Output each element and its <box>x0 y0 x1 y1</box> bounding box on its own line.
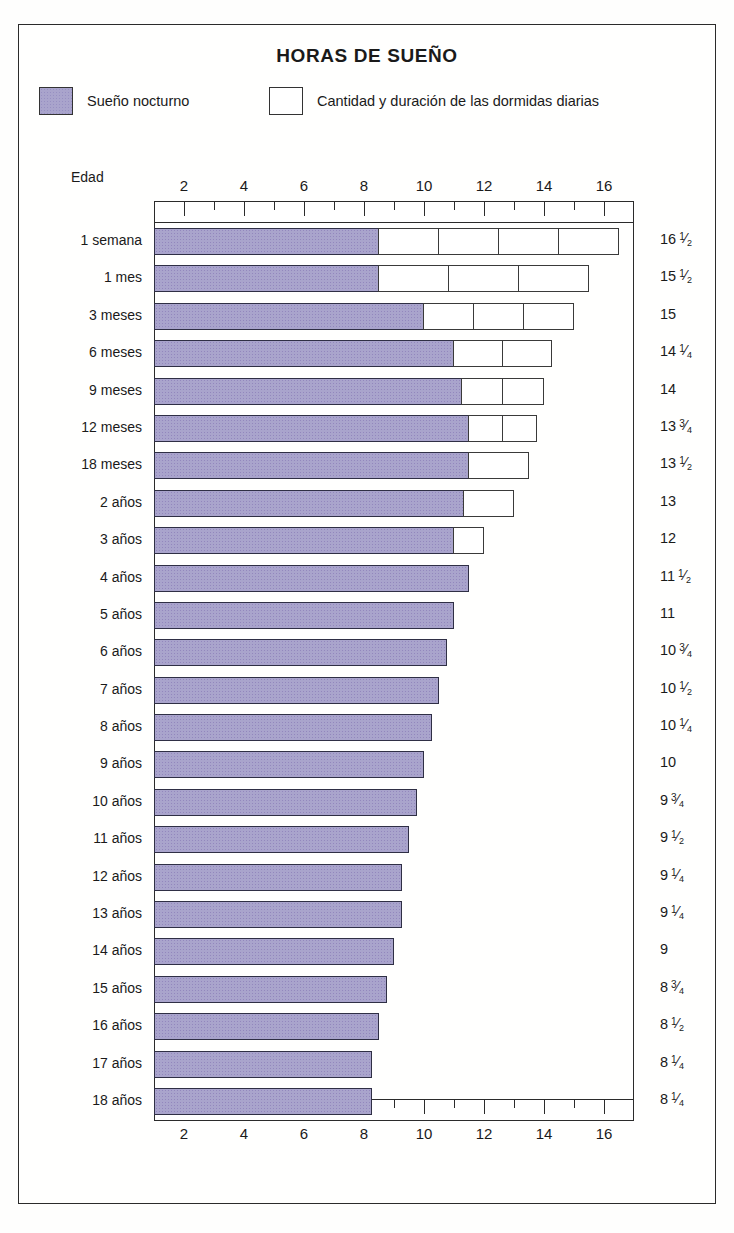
bar-row-total-label: 101⁄2 <box>660 680 692 696</box>
bar-row: 18 meses131⁄2 <box>154 447 634 484</box>
bar-segment-night <box>154 901 402 928</box>
fraction: 1⁄4 <box>671 867 684 881</box>
bar-row-age-label: 10 años <box>22 793 142 809</box>
chart-frame: HORAS DE SUEÑO Sueño nocturno Cantidad y… <box>18 24 716 1204</box>
bar-row-age-label: 1 mes <box>22 269 142 285</box>
stacked-bar <box>154 452 529 479</box>
bar-row-age-label: 8 años <box>22 718 142 734</box>
legend-item-night: Sueño nocturno <box>39 87 189 115</box>
bar-row-age-label: 13 años <box>22 905 142 921</box>
bar-row-total-label: 101⁄4 <box>660 717 692 733</box>
fraction: 1⁄4 <box>671 1091 684 1105</box>
stacked-bar <box>154 714 432 741</box>
bar-row-total-label: 93⁄4 <box>660 792 684 808</box>
fraction: 3⁄4 <box>671 979 684 993</box>
bar-row-total-label: 81⁄4 <box>660 1091 684 1107</box>
bar-row: 13 años91⁄4 <box>154 896 634 933</box>
bar-row: 16 años81⁄2 <box>154 1008 634 1045</box>
bar-segment-night <box>154 1051 372 1078</box>
bar-row-age-label: 9 meses <box>22 382 142 398</box>
bar-row-age-label: 7 años <box>22 681 142 697</box>
stacked-bar <box>154 677 439 704</box>
stacked-bar <box>154 228 619 255</box>
axis-tick-label: 12 <box>476 177 493 194</box>
bar-row-total-label: 131⁄2 <box>660 455 692 471</box>
stacked-bar <box>154 789 417 816</box>
bar-row-total-label: 12 <box>660 530 676 546</box>
fraction: 1⁄2 <box>671 1016 684 1030</box>
axis-tick-label: 6 <box>300 1125 308 1142</box>
bar-segment-night <box>154 789 417 816</box>
bar-segment-night <box>154 565 469 592</box>
stacked-bar <box>154 938 394 965</box>
axis-tick-label: 10 <box>416 177 433 194</box>
fraction: 1⁄4 <box>679 343 692 357</box>
bar-segment-nap <box>423 303 474 330</box>
bar-segment-nap <box>468 452 529 479</box>
stacked-bar <box>154 415 537 442</box>
axis-tick-label: 16 <box>596 177 613 194</box>
axis-tick <box>484 202 485 216</box>
bar-row-age-label: 4 años <box>22 569 142 585</box>
bar-segment-nap <box>502 378 544 405</box>
bar-row-age-label: 2 años <box>22 494 142 510</box>
bar-segment-nap <box>523 303 574 330</box>
stacked-bar <box>154 565 469 592</box>
bar-segment-nap <box>502 340 552 367</box>
axis-tick-label: 8 <box>360 177 368 194</box>
bar-row-age-label: 11 años <box>22 830 142 846</box>
bar-row-age-label: 18 meses <box>22 456 142 472</box>
bar-row-age-label: 9 años <box>22 755 142 771</box>
stacked-bar <box>154 1088 372 1115</box>
bar-row-age-label: 14 años <box>22 942 142 958</box>
bar-segment-night <box>154 415 469 442</box>
axis-tick <box>334 202 335 210</box>
stacked-bar <box>154 378 544 405</box>
bar-row: 4 años111⁄2 <box>154 560 634 597</box>
bar-row-total-label: 91⁄4 <box>660 904 684 920</box>
bar-segment-nap <box>558 228 619 255</box>
bar-row-total-label: 14 <box>660 381 676 397</box>
bar-segment-nap <box>518 265 589 292</box>
axis-tick-label: 12 <box>476 1125 493 1142</box>
stacked-bar <box>154 602 454 629</box>
axis-tick <box>604 202 605 216</box>
bar-row-total-label: 111⁄2 <box>660 568 691 584</box>
bar-row: 10 años93⁄4 <box>154 784 634 821</box>
bar-row-total-label: 81⁄4 <box>660 1054 684 1070</box>
bar-row-total-label: 103⁄4 <box>660 642 692 658</box>
stacked-bar <box>154 901 402 928</box>
bar-segment-nap <box>378 228 439 255</box>
bar-row-age-label: 5 años <box>22 606 142 622</box>
bar-segment-night <box>154 751 424 778</box>
bar-segment-night <box>154 677 439 704</box>
axis-tick-label: 2 <box>180 1125 188 1142</box>
axis-tick <box>544 202 545 216</box>
bar-row-total-label: 15 <box>660 306 676 322</box>
bar-segment-nap <box>461 378 503 405</box>
bar-row-age-label: 12 meses <box>22 419 142 435</box>
axis-tick <box>514 202 515 210</box>
axis-tick-label: 10 <box>416 1125 433 1142</box>
bar-row: 6 años103⁄4 <box>154 634 634 671</box>
bar-segment-night <box>154 1013 379 1040</box>
bar-segment-night <box>154 378 462 405</box>
bar-row: 1 mes151⁄2 <box>154 260 634 297</box>
stacked-bar <box>154 340 552 367</box>
fraction: 1⁄4 <box>671 904 684 918</box>
bar-row: 14 años9 <box>154 933 634 970</box>
stacked-bar <box>154 303 574 330</box>
legend-label-night: Sueño nocturno <box>87 93 189 109</box>
bar-row-total-label: 83⁄4 <box>660 979 684 995</box>
bar-segment-night <box>154 340 454 367</box>
stacked-bar <box>154 265 589 292</box>
bar-row: 9 meses14 <box>154 373 634 410</box>
fraction: 3⁄4 <box>671 792 684 806</box>
bar-row-age-label: 3 meses <box>22 307 142 323</box>
fraction: 1⁄4 <box>671 1054 684 1068</box>
bar-row-age-label: 6 meses <box>22 344 142 360</box>
axis-tick <box>454 202 455 210</box>
axis-tick <box>214 202 215 210</box>
legend: Sueño nocturno Cantidad y duración de la… <box>19 87 715 127</box>
bar-row-total-label: 161⁄2 <box>660 231 692 247</box>
